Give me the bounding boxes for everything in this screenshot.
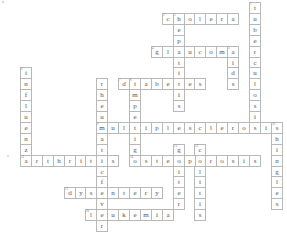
cell-letter: l [163,47,173,57]
crossword-cell[interactable]: r [173,198,185,210]
cell-letter: e [206,14,216,24]
cell-letter: t [195,188,205,198]
cell-letter: s [195,79,205,89]
cell-letter: o [174,156,184,166]
cell-letter: i [239,156,249,166]
cell-letter: i [174,90,184,100]
crossword-cell[interactable]: s [107,155,119,167]
cell-letter: i [130,134,140,144]
clue-number: 13 [21,155,24,159]
cell-letter: t [130,123,140,133]
crossword-cell[interactable]: e [162,78,174,90]
crossword-cell[interactable]: s [194,78,206,90]
cell-letter: s [174,101,184,111]
cell-letter: a [141,79,151,89]
cell-letter: u [250,14,260,24]
cell-letter: t [174,79,184,89]
cell-letter: l [21,101,31,111]
cell-letter: d [228,68,238,78]
clue-number: 2 [163,13,165,17]
cell-letter: u [250,68,260,78]
cell-letter: l [206,123,216,133]
cell-letter: r [228,123,238,133]
cell-letter: o [206,47,216,57]
cell-letter: t [174,177,184,187]
clue-number: 15 [65,187,68,191]
cell-letter: g [130,145,140,155]
cell-letter: s [195,210,205,220]
cell-letter: f [21,90,31,100]
cell-letter: r [97,79,107,89]
cell-letter: m [130,90,140,100]
cell-letter: i [272,145,282,155]
clue-number: 1 [250,2,252,6]
clue-number: 8 [130,78,132,82]
cell-letter: t [43,156,53,166]
cell-letter: e [97,101,107,111]
crossword-cell[interactable]: l16 [85,209,97,221]
clue-number: 9 [97,122,99,126]
cell-letter: i [195,177,205,187]
cell-letter: s [272,199,282,209]
clue-number: 5 [228,46,230,50]
cell-letter: p [174,36,184,46]
crossword-cell[interactable]: y [151,187,163,199]
cell-letter: i [250,112,260,122]
clue-number: 11 [174,144,177,148]
crossword-cell[interactable]: p [184,155,196,167]
cell-letter: e [250,36,260,46]
stray-mark [7,155,9,157]
cell-letter: n [21,79,31,89]
cell-letter: s [228,156,238,166]
cell-letter: r [206,156,216,166]
cell-letter: u [108,210,118,220]
cell-letter: o [250,90,260,100]
crossword-cell[interactable]: r [96,220,108,232]
cell-letter: t [86,156,96,166]
cell-letter: v [97,199,107,209]
crossword-cell[interactable]: t [85,155,97,167]
cell-letter: h [54,156,64,166]
crossword-cell[interactable]: s [249,155,261,167]
crossword-cell[interactable]: s [173,100,185,112]
cell-letter: i [152,210,162,220]
cell-letter: e [174,188,184,198]
clue-number: 10 [272,122,275,126]
cell-letter: p [185,156,195,166]
cell-letter: o [195,156,205,166]
cell-letter: h [272,134,282,144]
cell-letter: o [239,123,249,133]
cell-letter: e [174,25,184,35]
crossword-cell[interactable]: l [118,122,130,134]
crossword-cell[interactable]: l [162,46,174,58]
cell-letter: r [217,14,227,24]
cell-letter: u [97,112,107,122]
crossword-cell[interactable]: a [227,13,239,25]
cell-letter: s [250,156,260,166]
cell-letter: t [97,145,107,155]
cell-letter: s [86,188,96,198]
cell-letter: r [174,199,184,209]
crossword-cell[interactable]: e [162,155,174,167]
crossword-cell[interactable]: a [162,209,174,221]
cell-letter: e [130,112,140,122]
cell-letter: e [174,123,184,133]
cell-letter: e [21,123,31,133]
cell-letter: n [21,134,31,144]
cell-letter: l [195,14,205,24]
crossword-cell[interactable]: s [227,78,239,90]
clue-number: 7 [119,78,121,82]
cell-letter: e [272,188,282,198]
cell-letter: t [152,156,162,166]
cell-letter: f [97,177,107,187]
crossword-cell[interactable]: s [194,209,206,221]
crossword-cell[interactable]: s [85,187,97,199]
cell-letter: i [141,123,151,133]
cell-letter: l [119,123,129,133]
cell-letter: s [250,123,260,133]
crossword-cell[interactable]: o [238,122,250,134]
cell-letter: e [130,210,140,220]
cell-letter: n [272,156,282,166]
crossword-cell[interactable]: s [271,198,283,210]
cell-letter: i [261,123,271,133]
